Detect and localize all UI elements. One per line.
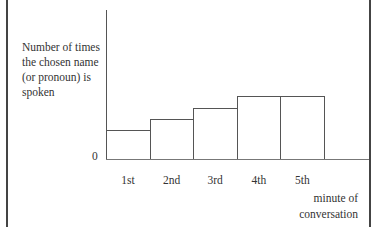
x-label-line: minute of: [299, 190, 358, 206]
x-tick-label: 2nd: [150, 174, 194, 186]
bar-5th: [280, 96, 325, 159]
y-axis-label: Number of times the chosen name (or pron…: [22, 40, 112, 100]
x-label-line: conversation: [299, 206, 358, 222]
bar-2nd: [150, 119, 195, 159]
x-tick-label: 5th: [280, 174, 324, 186]
x-axis: [106, 159, 369, 160]
y-label-line: spoken: [22, 85, 112, 100]
left-border: [6, 0, 8, 227]
y-label-line: (or pronoun) is: [22, 70, 112, 85]
x-axis-label: minute of conversation: [299, 190, 358, 222]
right-border: [369, 0, 371, 227]
y-label-line: Number of times: [22, 40, 112, 55]
x-tick-label: 1st: [106, 174, 150, 186]
y-label-line: the chosen name: [22, 55, 112, 70]
bar-3rd: [193, 108, 238, 159]
bar-1st: [106, 130, 151, 159]
bar-4th: [237, 96, 282, 159]
x-tick-label: 3rd: [193, 174, 237, 186]
y-tick-zero: 0: [92, 150, 98, 162]
x-tick-label: 4th: [237, 174, 281, 186]
